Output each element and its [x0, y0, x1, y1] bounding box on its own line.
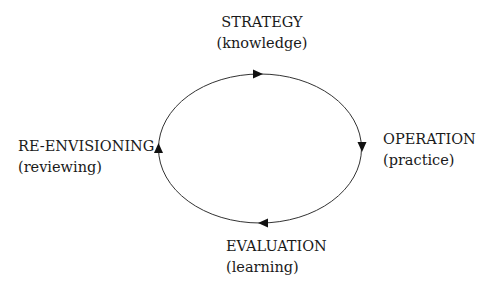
cycle-ellipse — [159, 74, 362, 223]
node-evaluation: EVALUATION (learning) — [226, 236, 327, 278]
arrow-left-icon — [258, 219, 268, 228]
node-strategy: STRATEGY (knowledge) — [207, 12, 317, 54]
node-subtitle: (knowledge) — [207, 33, 317, 54]
node-title: EVALUATION — [226, 236, 327, 257]
node-title: RE-ENVISIONING — [18, 136, 154, 157]
arrow-down-icon — [358, 142, 367, 152]
node-subtitle: (reviewing) — [18, 157, 154, 178]
node-subtitle: (practice) — [383, 150, 476, 171]
node-title: OPERATION — [383, 129, 476, 150]
node-subtitle: (learning) — [226, 257, 327, 278]
arrow-right-icon — [253, 70, 263, 79]
arrow-up-icon — [154, 143, 163, 153]
node-operation: OPERATION (practice) — [383, 129, 476, 171]
node-title: STRATEGY — [207, 12, 317, 33]
node-reenvisioning: RE-ENVISIONING (reviewing) — [18, 136, 154, 178]
